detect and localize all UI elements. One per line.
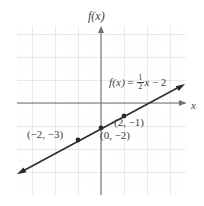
equation-fraction: 12 <box>137 74 143 91</box>
equation-lhs: f(x) <box>109 76 125 88</box>
fraction-denominator: 2 <box>137 82 143 91</box>
fraction-numerator: 1 <box>137 74 143 82</box>
x-axis-label: x <box>191 100 196 111</box>
point-marker-neg2-neg3 <box>76 138 81 143</box>
graph-figure: f(x) x f(x) = 12x − 2 (−2, −3) (2, −1) (… <box>0 0 204 206</box>
coordinate-plane <box>0 0 204 206</box>
point-label-neg2-neg3: (−2, −3) <box>27 129 63 140</box>
y-axis-label: f(x) <box>88 10 105 22</box>
equation-annotation: f(x) = 12x − 2 <box>109 74 167 91</box>
point-label-0-neg2: (0, −2) <box>100 130 130 141</box>
point-label-2-neg1: (2, −1) <box>114 117 144 128</box>
equation-constant: 2 <box>161 76 167 88</box>
